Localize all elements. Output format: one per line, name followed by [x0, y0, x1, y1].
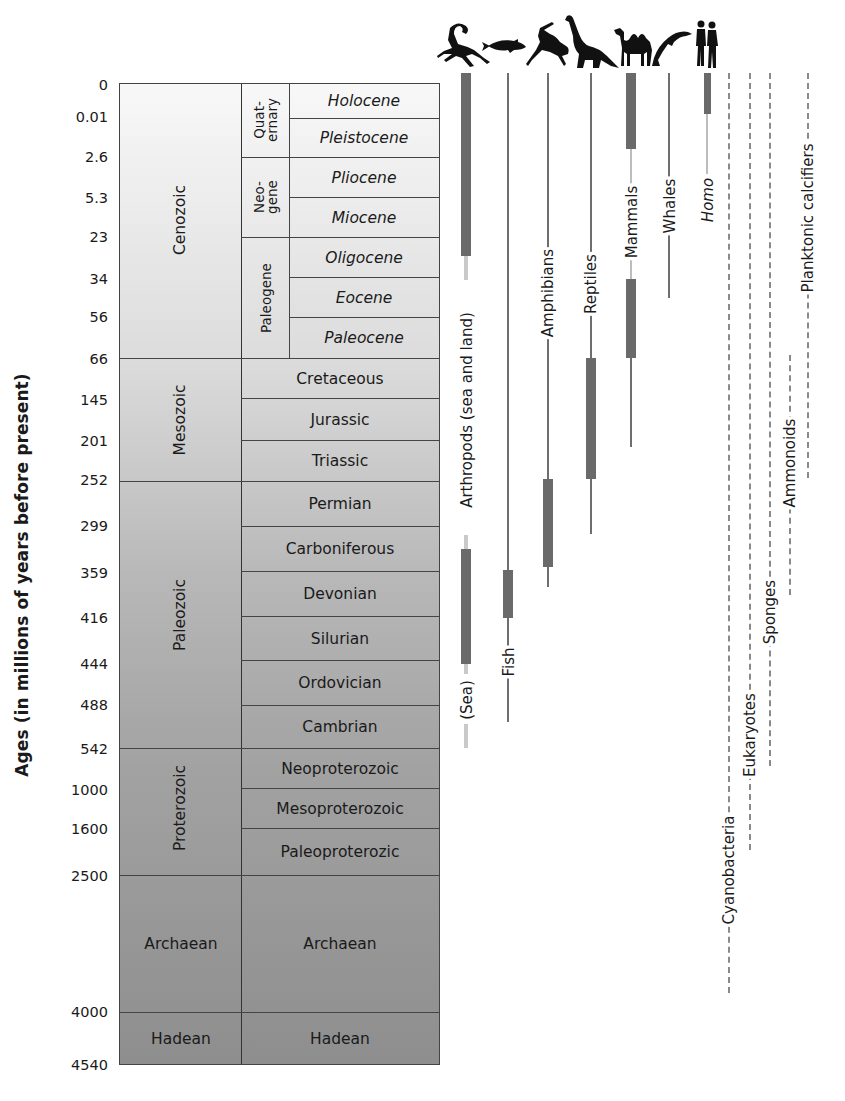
humans-icon — [694, 20, 720, 70]
tick: 359 — [80, 565, 108, 581]
tick: 66 — [90, 351, 108, 367]
period-permian: Permian — [241, 481, 440, 527]
period-label-paleogene: Paleogene — [260, 263, 273, 333]
range-bar — [543, 479, 553, 567]
tick: 1600 — [71, 821, 108, 837]
tick: 252 — [80, 472, 108, 488]
tick: 416 — [80, 610, 108, 626]
range-bar — [461, 73, 471, 256]
tick: 4000 — [71, 1004, 108, 1020]
range-uncertain — [464, 535, 468, 549]
range-dashed — [769, 73, 771, 766]
era-label-paleozoic: Paleozoic — [171, 579, 189, 651]
tick: 145 — [80, 392, 108, 408]
tick: 542 — [80, 741, 108, 757]
era-label-cenozoic: Cenozoic — [171, 185, 189, 255]
period-ordovician: Ordovician — [241, 660, 440, 706]
range-bar — [704, 73, 711, 114]
period-cretaceous: Cretaceous — [241, 358, 440, 399]
y-axis-title-text: Ages (in millions of years before presen… — [12, 373, 32, 776]
range-line-faint — [706, 114, 708, 174]
range-line — [630, 358, 632, 447]
range-uncertain — [464, 664, 468, 674]
tick: 2.6 — [85, 149, 108, 165]
tick: 23 — [90, 229, 108, 245]
tick: 2500 — [71, 868, 108, 884]
eon-label-proterozoic: Proterozoic — [171, 765, 189, 851]
archaean-cell: Archaean — [241, 875, 440, 1013]
tick: 5.3 — [85, 190, 108, 206]
era-neoproterozoic: Neoproterozoic — [241, 748, 440, 789]
era-label-mesozoic: Mesozoic — [171, 385, 189, 456]
era-mesoproterozoic: Mesoproterozoic — [241, 788, 440, 829]
eon-label-archaean: Archaean — [144, 935, 217, 953]
period-devonian: Devonian — [241, 571, 440, 617]
epoch-holocene: Holocene — [289, 83, 440, 119]
tick: 0 — [99, 77, 108, 93]
tick: 1000 — [71, 782, 108, 798]
period-label-neogene: Neo-gene — [253, 180, 279, 214]
period-label-quaternary: Quat-ernary — [253, 98, 279, 142]
epoch-paleocene: Paleocene — [289, 317, 440, 359]
epoch-miocene: Miocene — [289, 197, 440, 238]
tick: 0.01 — [76, 109, 108, 125]
range-uncertain — [464, 724, 468, 748]
epoch-oligocene: Oligocene — [289, 237, 440, 278]
tick: 299 — [80, 518, 108, 534]
tick: 34 — [90, 271, 108, 287]
epoch-pliocene: Pliocene — [289, 157, 440, 198]
tick: 488 — [80, 697, 108, 713]
range-bar — [626, 73, 636, 149]
range-bar — [461, 549, 471, 664]
epoch-pleistocene: Pleistocene — [289, 118, 440, 158]
range-bar — [626, 279, 636, 358]
tick: 201 — [80, 433, 108, 449]
tick: 444 — [80, 656, 108, 672]
range-bar — [503, 570, 513, 618]
range-line — [590, 479, 592, 534]
period-triassic: Triassic — [241, 440, 440, 482]
tick: 56 — [90, 309, 108, 325]
hadean-cell: Hadean — [241, 1012, 440, 1065]
range-bar — [586, 358, 596, 479]
eon-hadean: Hadean — [119, 1012, 242, 1065]
epoch-eocene: Eocene — [289, 277, 440, 318]
eon-archaean: Archaean — [119, 875, 242, 1013]
period-silurian: Silurian — [241, 616, 440, 661]
range-line — [547, 567, 549, 587]
period-cambrian: Cambrian — [241, 705, 440, 749]
era-paleoproterozoic: Paleoproterozic — [241, 828, 440, 876]
period-carboniferous: Carboniferous — [241, 526, 440, 572]
dolphin-icon — [650, 28, 692, 68]
tick: 4540 — [71, 1057, 108, 1073]
fish-icon — [482, 38, 526, 56]
period-jurassic: Jurassic — [241, 398, 440, 441]
range-uncertain — [464, 256, 468, 280]
range-line — [507, 73, 509, 570]
dinosaur-icon — [565, 14, 619, 70]
eon-label-hadean: Hadean — [151, 1030, 211, 1048]
